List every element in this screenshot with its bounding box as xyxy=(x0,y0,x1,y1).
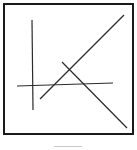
caption-text xyxy=(54,146,82,147)
falling-diagonal xyxy=(62,62,127,128)
line-group xyxy=(17,15,127,128)
vertical-line xyxy=(32,20,33,110)
diagram-canvas xyxy=(0,0,137,150)
figure-caption xyxy=(54,145,82,148)
horizontal-line xyxy=(17,83,113,86)
rising-diagonal xyxy=(40,15,124,99)
line-diagram xyxy=(0,0,137,150)
